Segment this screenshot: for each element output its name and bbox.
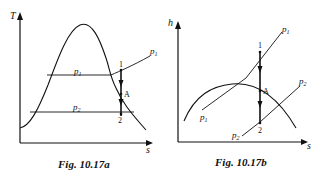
down-arrow-icon xyxy=(119,99,124,106)
s-axis-label-a: s xyxy=(146,144,150,155)
point-1-b: 1 xyxy=(258,41,262,50)
down-arrow-icon xyxy=(258,66,263,73)
point-2-b: 2 xyxy=(258,126,262,135)
s-axis-label-b: s xyxy=(307,140,311,151)
point-a-a: A xyxy=(124,90,130,99)
caption-a: Fig. 10.17a xyxy=(57,158,110,170)
h-axis-label: h xyxy=(168,17,173,28)
p2-top-label-b: p2 xyxy=(298,76,307,87)
h-axis-arrow-icon xyxy=(175,21,181,29)
point-a-b: A xyxy=(263,87,269,96)
t-axis-label: T xyxy=(10,10,17,21)
t-axis-arrow-icon xyxy=(17,12,23,20)
p1-end-label-a: p1 xyxy=(149,46,158,57)
point-2-a: 2 xyxy=(118,116,122,125)
figure-b: h s p1 p1 p2 p2 1 A 2 Fig. 10.17b xyxy=(168,17,311,168)
p1-low-label-b: p1 xyxy=(199,112,208,123)
p2-label-a: p2 xyxy=(72,102,81,113)
saturation-dome-a xyxy=(20,24,146,130)
point-1-a: 1 xyxy=(119,60,123,69)
p2-low-label-b: p2 xyxy=(231,130,240,141)
caption-b: Fig. 10.17b xyxy=(214,156,267,168)
diagram-canvas: T s p1 p1 p2 1 A 2 Fig. 10.17a h s xyxy=(0,0,327,179)
figure-a: T s p1 p1 p2 1 A 2 Fig. 10.17a xyxy=(10,10,158,170)
isobar-p1-superheat-a xyxy=(111,56,150,75)
p1-label-a: p1 xyxy=(73,66,82,77)
p1-top-label-b: p1 xyxy=(281,24,290,35)
down-arrow-icon xyxy=(258,101,263,108)
isobar-p1-b xyxy=(202,32,282,110)
down-arrow-icon xyxy=(119,80,124,87)
isobar-p2-b xyxy=(242,86,300,136)
